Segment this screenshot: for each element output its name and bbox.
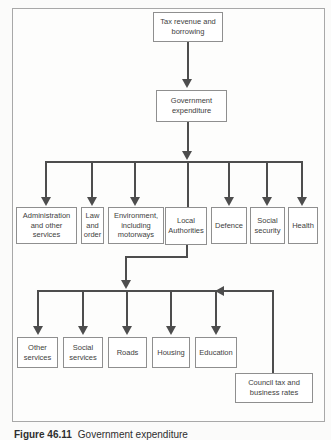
arrowhead-down-icon (224, 197, 234, 206)
node-social-security: Social security (250, 207, 285, 244)
connector-tax-to-gov (187, 42, 189, 79)
arrowhead-down-icon (33, 326, 43, 335)
node-law-and-order: Law and order (81, 207, 104, 244)
arrowhead-down-icon (78, 326, 88, 335)
connector-local-auth-elbow-h (125, 256, 188, 258)
connector-bus2 (38, 290, 274, 292)
arrowhead-down-icon (182, 79, 192, 88)
connector-gov-to-bus (187, 122, 189, 151)
connector-bus1-drop-health (301, 161, 303, 197)
arrowhead-down-icon (130, 197, 140, 206)
connector-council-tax-up (272, 290, 274, 373)
connector-bus1-drop-law (91, 161, 93, 197)
node-housing: Housing (152, 337, 190, 368)
connector-bus1-drop-environment (134, 161, 136, 197)
connector-bus2-drop-social-services (82, 290, 84, 326)
node-education: Education (195, 337, 237, 368)
arrowhead-down-icon (211, 326, 221, 335)
arrowhead-down-icon (166, 326, 176, 335)
connector-bus2-drop-other-services (37, 290, 39, 326)
node-administration: Administration and other services (16, 207, 77, 244)
connector-bus1-drop-administration (45, 161, 47, 197)
node-environment: Environment, including motorways (108, 207, 164, 244)
connector-bus1-drop-defence (228, 161, 230, 197)
connector-bus2-drop-housing (170, 290, 172, 326)
node-local-authorities: Local Authorities (165, 207, 207, 245)
node-other-services: Other services (17, 337, 58, 368)
node-government-expenditure: Government expenditure (156, 90, 227, 122)
connector-bus1-drop-social-security (266, 161, 268, 197)
node-tax-revenue: Tax revenue and borrowing (153, 12, 223, 42)
connector-bus2-drop-roads (126, 290, 128, 326)
node-roads: Roads (108, 337, 147, 368)
arrowhead-down-icon (182, 151, 192, 160)
node-defence: Defence (211, 207, 247, 244)
node-social-services: Social services (63, 337, 103, 368)
connector-bus1 (46, 161, 303, 163)
arrowhead-down-icon (87, 197, 97, 206)
arrowhead-down-icon (41, 197, 51, 206)
figure-caption-number: Figure 46.11 (14, 429, 72, 440)
figure-caption: Figure 46.11Government expenditure (14, 429, 314, 440)
figure-caption-title: Government expenditure (78, 429, 188, 440)
connector-bus1-drop-local-authorities (187, 161, 189, 207)
arrowhead-down-icon (122, 326, 132, 335)
arrowhead-down-icon (297, 197, 307, 206)
node-council-tax: Council tax and business rates (235, 373, 313, 403)
node-health: Health (288, 207, 318, 244)
arrowhead-down-icon (262, 197, 272, 206)
arrowhead-down-icon (121, 280, 131, 289)
connector-local-auth-elbow-v2 (125, 256, 127, 280)
connector-bus2-drop-education (215, 290, 217, 326)
